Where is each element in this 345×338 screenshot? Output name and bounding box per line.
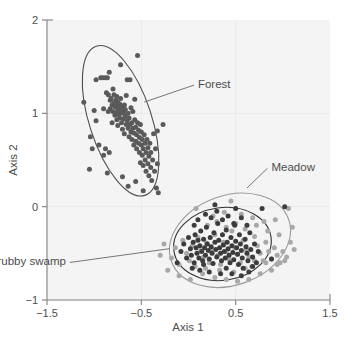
data-point-meadow <box>229 228 234 233</box>
data-point-meadow <box>275 253 280 258</box>
data-point-shrubby-swamp <box>244 251 249 256</box>
data-point-meadow <box>252 234 257 239</box>
data-point-shrubby-swamp <box>240 256 245 261</box>
data-point-shrubby-swamp <box>225 240 230 245</box>
data-point-forest <box>101 153 106 158</box>
data-point-meadow <box>161 242 166 247</box>
data-point-shrubby-swamp <box>244 223 249 228</box>
data-point-forest <box>120 127 125 132</box>
tick-label-y: 0 <box>32 201 38 213</box>
data-point-shrubby-swamp <box>239 273 244 278</box>
data-point-shrubby-swamp <box>211 230 216 235</box>
data-point-meadow <box>265 228 270 233</box>
tick-label-x: −1.5 <box>36 307 58 319</box>
data-point-meadow <box>184 251 189 256</box>
data-point-shrubby-swamp <box>214 255 219 260</box>
data-point-forest <box>144 169 149 174</box>
y-axis-label: Axis 2 <box>7 144 19 175</box>
data-point-shrubby-swamp <box>195 217 200 222</box>
data-point-shrubby-swamp <box>210 251 215 256</box>
data-point-shrubby-swamp <box>178 249 183 254</box>
data-point-shrubby-swamp <box>236 262 241 267</box>
data-point-shrubby-swamp <box>247 230 252 235</box>
data-point-shrubby-swamp <box>211 261 216 266</box>
data-point-shrubby-swamp <box>201 262 206 267</box>
data-point-forest <box>132 97 137 102</box>
data-point-forest <box>122 131 127 136</box>
data-point-meadow <box>212 275 217 280</box>
data-point-shrubby-swamp <box>248 247 253 252</box>
data-point-shrubby-swamp <box>194 251 199 256</box>
data-point-shrubby-swamp <box>212 202 217 207</box>
data-point-forest <box>128 77 133 82</box>
data-point-shrubby-swamp <box>239 248 244 253</box>
data-point-shrubby-swamp <box>207 270 212 275</box>
tick-label-x: −0.5 <box>130 307 152 319</box>
data-point-forest <box>142 132 147 137</box>
data-point-forest <box>94 118 99 123</box>
data-point-shrubby-swamp <box>238 242 243 247</box>
annotation-label-forest: Forest <box>198 78 231 90</box>
data-point-shrubby-swamp <box>260 206 265 211</box>
data-point-shrubby-swamp <box>184 256 189 261</box>
data-point-forest <box>94 77 99 82</box>
data-point-forest <box>147 141 152 146</box>
data-point-shrubby-swamp <box>193 232 198 237</box>
data-point-forest <box>126 111 131 116</box>
data-point-meadow <box>277 232 282 237</box>
tick-label-y: 1 <box>32 107 38 119</box>
data-point-shrubby-swamp <box>216 238 221 243</box>
data-point-forest <box>156 190 161 195</box>
data-point-shrubby-swamp <box>215 221 220 226</box>
data-point-shrubby-swamp <box>252 242 257 247</box>
data-point-meadow <box>173 245 178 250</box>
data-point-forest <box>152 169 157 174</box>
data-point-shrubby-swamp <box>234 245 239 250</box>
data-point-shrubby-swamp <box>254 260 259 265</box>
data-point-meadow <box>158 253 163 258</box>
data-point-shrubby-swamp <box>250 255 255 260</box>
data-point-forest <box>145 145 150 150</box>
data-point-meadow <box>246 277 251 282</box>
data-point-meadow <box>169 256 174 261</box>
data-point-forest <box>148 150 153 155</box>
tick-label-x: 0.5 <box>228 307 243 319</box>
data-point-shrubby-swamp <box>224 228 229 233</box>
data-point-meadow <box>282 258 287 263</box>
data-point-forest <box>90 146 95 151</box>
data-point-meadow <box>272 245 277 250</box>
data-point-meadow <box>275 262 280 267</box>
data-point-shrubby-swamp <box>192 223 197 228</box>
data-point-shrubby-swamp <box>198 228 203 233</box>
data-point-shrubby-swamp <box>189 253 194 258</box>
data-point-forest <box>155 161 160 166</box>
data-point-meadow <box>222 210 227 215</box>
data-point-shrubby-swamp <box>228 235 233 240</box>
data-point-shrubby-swamp <box>190 266 195 271</box>
data-point-shrubby-swamp <box>231 257 236 262</box>
data-point-forest <box>135 53 140 58</box>
data-point-forest <box>81 100 86 105</box>
data-point-meadow <box>290 225 295 230</box>
data-point-shrubby-swamp <box>237 232 242 237</box>
data-point-forest <box>118 96 123 101</box>
data-point-shrubby-swamp <box>195 238 200 243</box>
data-point-forest <box>92 108 97 113</box>
data-point-shrubby-swamp <box>204 225 209 230</box>
data-point-shrubby-swamp <box>233 239 238 244</box>
data-point-forest <box>141 188 146 193</box>
data-point-shrubby-swamp <box>214 209 219 214</box>
data-point-forest <box>155 129 160 134</box>
plot-canvas: −1.5−0.50.51.5210−1 ForestMeadowShrubby … <box>0 0 345 338</box>
data-point-shrubby-swamp <box>282 204 287 209</box>
data-point-forest <box>87 167 92 172</box>
data-point-shrubby-swamp <box>201 237 206 242</box>
data-point-forest <box>111 87 116 92</box>
data-point-meadow <box>288 240 293 245</box>
data-point-shrubby-swamp <box>220 217 225 222</box>
data-point-forest <box>105 75 110 80</box>
tick-label-y: 2 <box>32 14 38 26</box>
data-point-forest <box>124 93 129 98</box>
x-axis-label: Axis 1 <box>172 321 203 333</box>
data-point-forest <box>153 146 158 151</box>
